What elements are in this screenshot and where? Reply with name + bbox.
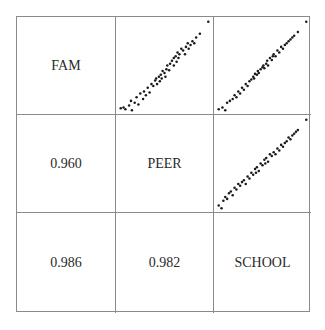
data-point: [237, 183, 240, 186]
data-point: [297, 31, 300, 34]
data-point: [278, 149, 281, 152]
data-point: [297, 129, 300, 132]
data-point: [228, 192, 231, 195]
data-point: [289, 38, 292, 41]
data-point: [248, 80, 251, 83]
data-point: [282, 145, 285, 148]
data-point: [285, 42, 288, 45]
data-point: [152, 85, 155, 88]
data-point: [265, 157, 268, 160]
data-point: [262, 64, 265, 67]
data-point: [130, 100, 133, 103]
data-point: [230, 190, 233, 193]
corr-school-fam: 0.986: [17, 213, 116, 313]
data-point: [178, 53, 181, 56]
data-point: [176, 51, 179, 54]
data-point: [180, 47, 183, 50]
data-point: [195, 36, 198, 39]
data-point: [133, 101, 136, 104]
data-point: [168, 69, 171, 72]
data-point: [255, 172, 258, 175]
data-point: [253, 77, 256, 80]
data-point: [287, 40, 290, 43]
data-point: [280, 46, 283, 49]
data-point: [293, 132, 296, 135]
data-point: [156, 83, 159, 86]
data-point: [143, 90, 146, 93]
data-point: [244, 83, 247, 86]
data-point: [173, 64, 176, 67]
data-point: [237, 90, 240, 93]
data-point: [291, 134, 294, 137]
data-point: [139, 92, 142, 95]
data-point: [231, 98, 234, 101]
data-point: [131, 109, 134, 112]
corr-school-peer: 0.982: [116, 213, 214, 313]
data-point: [158, 75, 161, 78]
data-point: [199, 33, 202, 36]
data-point: [276, 49, 279, 52]
data-point: [274, 55, 277, 58]
data-point: [160, 77, 163, 80]
data-point: [187, 47, 190, 50]
data-point: [124, 108, 127, 111]
data-point: [161, 70, 164, 73]
data-point: [221, 106, 224, 109]
data-point: [248, 177, 251, 180]
data-point: [224, 109, 227, 112]
data-point: [291, 36, 294, 39]
data-point: [258, 72, 261, 75]
data-point: [271, 155, 274, 158]
data-point: [222, 199, 225, 202]
data-point: [259, 68, 262, 71]
data-point: [226, 198, 229, 201]
diag-label-school: SCHOOL: [214, 213, 311, 313]
data-point: [233, 94, 236, 97]
data-point: [243, 88, 246, 91]
data-point: [177, 57, 180, 60]
data-point: [182, 49, 185, 52]
scatter-plot: [116, 17, 213, 114]
data-point: [135, 96, 138, 99]
data-point: [264, 162, 267, 165]
data-point: [165, 68, 168, 71]
data-point: [295, 131, 298, 134]
data-point: [207, 20, 210, 23]
scatter-fam-peer: [116, 17, 214, 115]
data-point: [241, 87, 244, 90]
data-point: [259, 162, 262, 165]
data-point: [233, 186, 236, 189]
data-point: [241, 181, 244, 184]
data-point: [175, 61, 178, 64]
data-point: [184, 53, 187, 56]
scatter-fam-school: [214, 17, 311, 115]
data-point: [246, 85, 249, 88]
data-point: [224, 196, 227, 199]
data-point: [266, 60, 269, 63]
data-point: [122, 106, 125, 109]
data-point: [272, 53, 275, 56]
data-point: [293, 34, 296, 37]
data-point: [278, 51, 281, 54]
data-point: [269, 57, 272, 60]
data-point: [305, 118, 308, 121]
data-point: [244, 183, 247, 186]
data-point: [243, 179, 246, 182]
data-point: [250, 172, 253, 175]
data-point: [128, 104, 131, 107]
data-point: [173, 57, 176, 60]
data-point: [155, 77, 158, 80]
diag-label-peer: PEER: [116, 115, 214, 213]
data-point: [256, 74, 259, 77]
data-point: [285, 140, 288, 143]
data-point: [217, 108, 220, 111]
diag-label-fam: FAM: [17, 17, 116, 115]
data-point: [235, 96, 238, 99]
data-point: [226, 101, 229, 104]
data-point: [267, 160, 270, 163]
data-point: [171, 60, 174, 63]
data-point: [189, 44, 192, 47]
data-point: [235, 188, 238, 191]
data-point: [220, 207, 223, 210]
data-point: [250, 78, 253, 81]
